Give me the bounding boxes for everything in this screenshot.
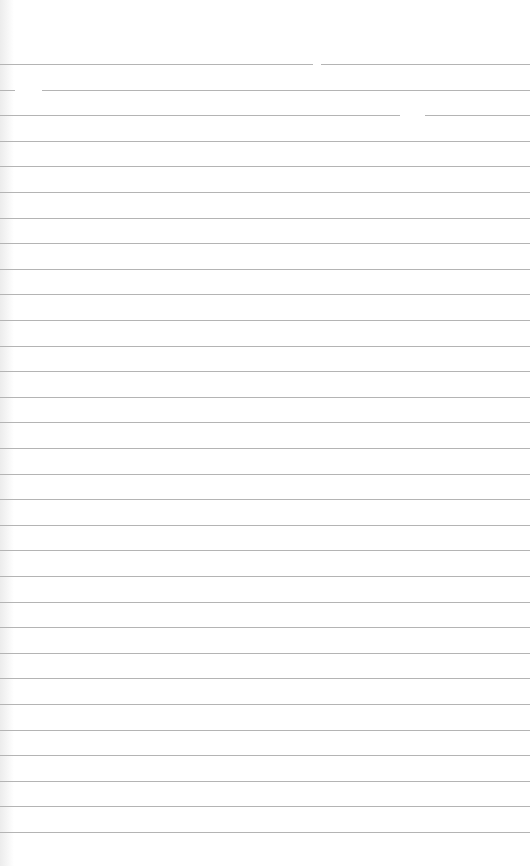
ruled-line [0,269,530,270]
line-gap [313,63,321,66]
ruled-line [0,474,530,475]
ruled-line [0,704,530,705]
ruled-line [0,371,530,372]
ruled-line [0,525,530,526]
line-gap [400,114,425,117]
ruled-line [0,499,530,500]
ruled-line [0,90,530,91]
left-edge-shadow [0,0,14,866]
ruled-line [0,448,530,449]
ruled-line [0,678,530,679]
ruled-line [0,346,530,347]
ruled-line [0,218,530,219]
ruled-line [0,627,530,628]
ruled-line [0,422,530,423]
lined-paper-page [0,0,530,866]
ruled-line [0,141,530,142]
ruled-line [0,192,530,193]
ruled-line [0,755,530,756]
ruled-line [0,397,530,398]
line-gap [15,89,42,92]
ruled-line [0,115,530,116]
ruled-line [0,781,530,782]
ruled-line [0,730,530,731]
ruled-line [0,166,530,167]
ruled-line [0,550,530,551]
ruled-line [0,64,530,65]
ruled-line [0,602,530,603]
ruled-line [0,320,530,321]
ruled-line [0,294,530,295]
ruled-line [0,243,530,244]
ruled-line [0,806,530,807]
ruled-line [0,576,530,577]
ruled-line [0,653,530,654]
ruled-line [0,832,530,833]
